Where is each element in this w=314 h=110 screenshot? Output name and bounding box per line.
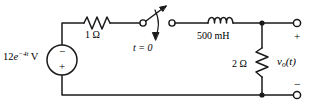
wire-bottom-rail (62, 75, 262, 95)
source-label: 12e−4t V (3, 52, 38, 63)
resistor2-zigzag (256, 48, 268, 77)
switch-terminal-right (169, 20, 175, 26)
junction-dot-bottom (259, 92, 264, 97)
circuit-schematic-svg (0, 0, 314, 110)
wire-source-to-resistor1 (62, 23, 84, 45)
output-minus-sign: − (294, 78, 301, 90)
source-terminal-minus: − (59, 46, 65, 57)
inductor-coil (208, 17, 233, 23)
resistor2-label: 2 Ω (232, 59, 247, 69)
switch-close-arrowhead (152, 33, 158, 41)
resistor1-zigzag (84, 17, 110, 29)
junction-dot-top (259, 20, 264, 25)
output-plus-sign: + (294, 31, 300, 42)
resistor1-label: 1 Ω (85, 30, 100, 40)
inductor-label: 500 mH (197, 31, 230, 41)
output-terminal-negative (293, 91, 300, 98)
switch-terminal-left (140, 20, 146, 26)
output-terminal-positive (293, 19, 300, 26)
output-voltage-label: vo(t) (277, 56, 296, 67)
switch-label: t = 0 (133, 43, 153, 53)
source-terminal-plus: + (59, 61, 65, 72)
circuit-diagram: 12e−4t V − + 1 Ω t = 0 500 mH 2 Ω vo(t) … (0, 0, 314, 110)
